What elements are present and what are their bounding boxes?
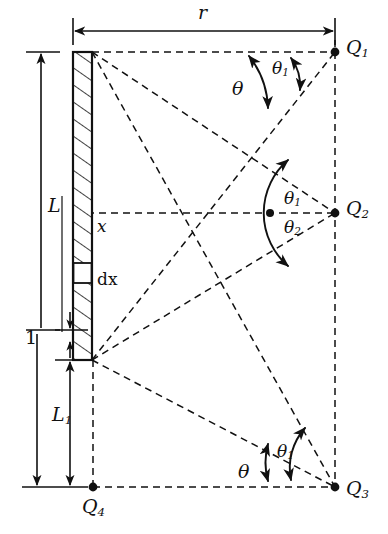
label-theta1-Q2: θ1 (284, 190, 301, 208)
label-theta1-Q3-base: θ (277, 441, 287, 461)
point-Q4 (89, 483, 98, 492)
label-theta2-Q2-sub: 2 (294, 225, 301, 237)
label-theta-Q1: θ (232, 79, 243, 98)
label-x: x (97, 218, 107, 235)
label-Q4-sub: 4 (98, 505, 106, 519)
label-L1-base: L (52, 403, 65, 425)
diagram-canvas (0, 0, 388, 534)
label-Q2: Q2 (346, 199, 369, 220)
label-theta1-Q3: θ1 (277, 443, 294, 461)
label-Q2-base: Q (346, 197, 362, 219)
label-theta1-Q2-base: θ (284, 188, 294, 208)
label-theta1-Q2-sub: 1 (294, 196, 301, 208)
rod-dx-element (74, 263, 92, 283)
label-Q4: Q4 (82, 497, 105, 518)
charged-rod (73, 52, 92, 360)
label-Q3: Q3 (346, 479, 369, 500)
label-theta1-Q3-sub: 1 (287, 449, 294, 461)
label-Q1-base: Q (346, 36, 362, 58)
rod-body (73, 52, 92, 360)
label-L1: L1 (52, 405, 72, 426)
label-L: L (48, 196, 61, 215)
label-Q1-sub: 1 (362, 46, 370, 60)
label-L1-sub: 1 (65, 413, 73, 427)
label-theta2-Q2: θ2 (284, 219, 301, 237)
label-theta1-Q1-base: θ (272, 58, 282, 78)
label-theta1-Q1-sub: 1 (282, 66, 289, 78)
label-theta-Q3: θ (238, 462, 249, 481)
point-Q2 (331, 209, 340, 218)
label-r: r (198, 3, 207, 22)
point-Q3 (331, 483, 340, 492)
label-Q1: Q1 (346, 38, 369, 59)
diagram-background (0, 0, 388, 534)
label-Q3-sub: 3 (362, 487, 370, 501)
label-Q2-sub: 2 (362, 207, 370, 221)
label-Q4-base: Q (82, 495, 98, 517)
label-theta1-Q1: θ1 (272, 60, 289, 78)
label-one: 1 (25, 328, 37, 347)
label-dx: dx (97, 271, 117, 288)
label-theta2-Q2-base: θ (284, 217, 294, 237)
label-Q3-base: Q (346, 477, 362, 499)
point-arc-vertex-Q2 (266, 209, 274, 217)
point-Q1 (331, 48, 340, 57)
